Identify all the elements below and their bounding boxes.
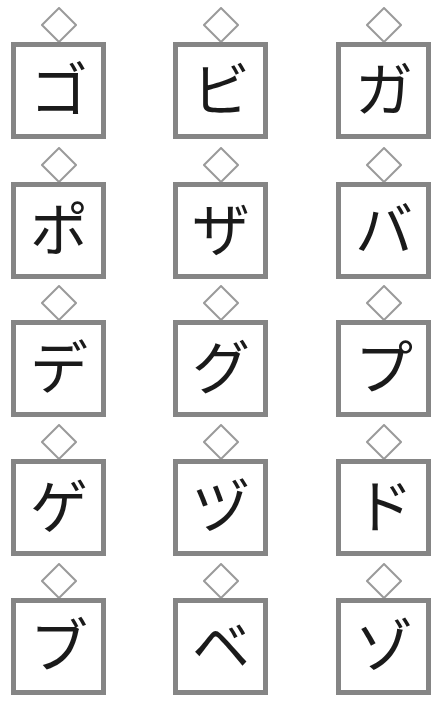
diamond-marker-icon bbox=[203, 285, 239, 321]
kana-character: ザ bbox=[192, 202, 250, 260]
kana-box: ド bbox=[336, 459, 431, 556]
diamond-marker-icon bbox=[366, 7, 402, 43]
kana-card: デ bbox=[11, 285, 106, 417]
kana-card: ブ bbox=[11, 563, 106, 695]
kana-box: ビ bbox=[173, 42, 268, 139]
kana-box: ベ bbox=[173, 598, 268, 695]
kana-box: ゲ bbox=[11, 459, 106, 556]
kana-box: グ bbox=[173, 320, 268, 417]
kana-card: ビ bbox=[173, 7, 268, 139]
kana-character: ヅ bbox=[192, 479, 250, 537]
diamond-marker-icon bbox=[203, 563, 239, 599]
kana-box: ザ bbox=[173, 182, 268, 279]
kana-box: ゴ bbox=[11, 42, 106, 139]
kana-box: ポ bbox=[11, 182, 106, 279]
diamond-marker-icon bbox=[41, 285, 77, 321]
kana-card: ヅ bbox=[173, 424, 268, 556]
kana-card: グ bbox=[173, 285, 268, 417]
kana-card: ザ bbox=[173, 147, 268, 279]
kana-card: ゾ bbox=[336, 563, 431, 695]
kana-card: ポ bbox=[11, 147, 106, 279]
kana-card: ベ bbox=[173, 563, 268, 695]
diamond-marker-icon bbox=[41, 147, 77, 183]
diamond-marker-icon bbox=[41, 563, 77, 599]
diamond-marker-icon bbox=[203, 7, 239, 43]
diamond-marker-icon bbox=[366, 563, 402, 599]
kana-character: グ bbox=[192, 340, 250, 398]
kana-card: ゲ bbox=[11, 424, 106, 556]
kana-box: ブ bbox=[11, 598, 106, 695]
kana-card: ゴ bbox=[11, 7, 106, 139]
kana-card: ガ bbox=[336, 7, 431, 139]
diamond-marker-icon bbox=[366, 285, 402, 321]
kana-box: バ bbox=[336, 182, 431, 279]
kana-card: バ bbox=[336, 147, 431, 279]
kana-box: デ bbox=[11, 320, 106, 417]
diamond-marker-icon bbox=[203, 424, 239, 460]
kana-box: ガ bbox=[336, 42, 431, 139]
kana-character: ブ bbox=[30, 618, 88, 676]
kana-character: ガ bbox=[355, 62, 413, 120]
kana-card: ド bbox=[336, 424, 431, 556]
kana-character: ド bbox=[355, 479, 413, 537]
diamond-marker-icon bbox=[41, 7, 77, 43]
kana-character: デ bbox=[30, 340, 88, 398]
kana-box: ゾ bbox=[336, 598, 431, 695]
diamond-marker-icon bbox=[203, 147, 239, 183]
kana-box: ヅ bbox=[173, 459, 268, 556]
kana-character: ゲ bbox=[30, 479, 88, 537]
diamond-marker-icon bbox=[366, 424, 402, 460]
kana-box: プ bbox=[336, 320, 431, 417]
kana-character: バ bbox=[355, 202, 413, 260]
kana-card: プ bbox=[336, 285, 431, 417]
kana-character: プ bbox=[355, 340, 413, 398]
diamond-marker-icon bbox=[41, 424, 77, 460]
kana-character: ポ bbox=[30, 202, 88, 260]
kana-character: ゴ bbox=[30, 62, 88, 120]
kana-character: ビ bbox=[192, 62, 250, 120]
kana-character: ゾ bbox=[355, 618, 413, 676]
kana-character: ベ bbox=[192, 618, 250, 676]
diamond-marker-icon bbox=[366, 147, 402, 183]
